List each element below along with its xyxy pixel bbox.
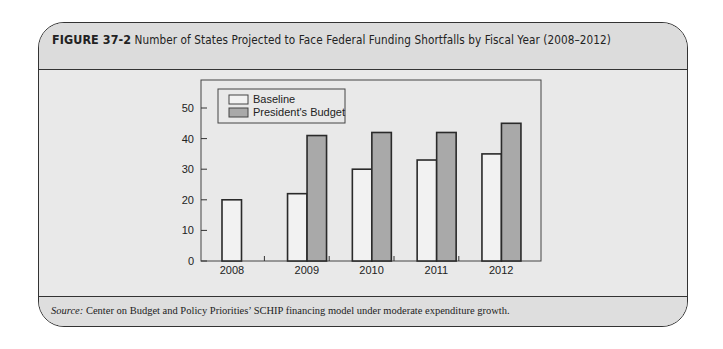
bar-chart: 0102030405020082009201020112012BaselineP… [0,0,723,349]
bar-baseline [352,169,372,261]
bar-presidents-budget [307,136,327,261]
bar-presidents-budget [437,132,457,261]
x-tick-label: 2009 [295,264,319,276]
x-tick-label: 2010 [359,264,383,276]
y-tick-label: 40 [182,133,194,145]
legend-swatch-presidents-budget [229,108,248,117]
y-tick-label: 20 [182,194,194,206]
x-tick-label: 2011 [425,264,449,276]
legend-label-baseline: Baseline [253,93,295,105]
bar-baseline [417,160,437,261]
x-tick-label: 2008 [220,264,244,276]
x-tick-label: 2012 [489,264,513,276]
bar-presidents-budget [372,132,392,261]
plot-area: 0102030405020082009201020112012BaselineP… [182,80,541,276]
y-tick-label: 30 [182,163,194,175]
bar-baseline [222,200,242,261]
legend-swatch-baseline [229,95,248,104]
legend-label-presidents-budget: President's Budget [253,106,345,118]
y-tick-label: 10 [182,224,194,236]
bar-presidents-budget [501,123,521,261]
bar-baseline [288,194,308,261]
y-tick-label: 50 [182,102,194,114]
bar-baseline [482,154,502,261]
y-tick-label: 0 [188,255,194,267]
